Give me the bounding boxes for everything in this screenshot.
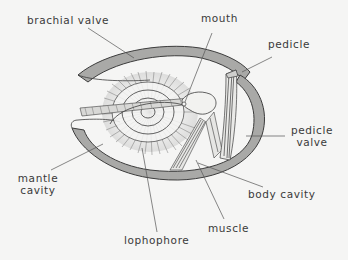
leader-brachial-valve [88,28,134,58]
pedicle-shape [220,70,238,160]
label-mantle-cavity: mantle cavity [16,172,60,196]
label-pedicle: pedicle [268,38,310,50]
leader-lophophore [142,148,157,232]
label-pedicle-valve-line1: pedicle [290,124,334,136]
label-muscle: muscle [208,222,249,234]
label-lophophore: lophophore [124,234,189,246]
leader-pedicle [242,57,272,72]
lophophore-shape [80,71,198,155]
label-pedicle-valve-line2: valve [290,136,334,148]
mouth-opening [182,102,186,106]
label-pedicle-valve: pedicle valve [290,124,334,148]
leader-mantle-cavity [51,144,103,170]
label-mantle-cavity-line2: cavity [16,184,60,196]
label-body-cavity: body cavity [248,188,316,200]
label-mantle-cavity-line1: mantle [16,172,60,184]
label-brachial-valve: brachial valve [27,14,109,26]
label-mouth: mouth [201,12,238,24]
